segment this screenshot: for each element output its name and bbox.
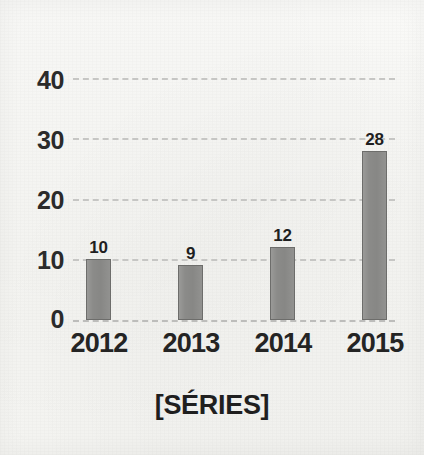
x-axis-title: [SÉRIES]: [0, 392, 424, 419]
bar-chart: 40 30 20 10 0 10 9 12 28 2012 2013 2014 …: [0, 0, 424, 455]
x-axis: 2012 2013 2014 2015: [0, 0, 424, 455]
x-axis-tick-2014: 2014: [244, 330, 322, 357]
x-axis-tick-2012: 2012: [60, 330, 138, 357]
x-axis-tick-2015: 2015: [336, 330, 414, 357]
x-axis-tick-2013: 2013: [152, 330, 230, 357]
